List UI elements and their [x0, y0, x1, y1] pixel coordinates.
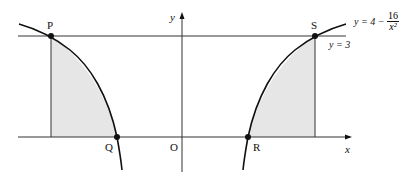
y-axis-label: y: [170, 12, 175, 23]
point-Q: [114, 134, 120, 140]
label-P: P: [47, 20, 53, 31]
curve-label-fraction: 16 x²: [387, 11, 399, 32]
point-R: [245, 134, 251, 140]
shaded-region-left: [51, 36, 117, 137]
point-P: [48, 33, 54, 39]
label-origin: O: [170, 142, 178, 153]
label-Q: Q: [105, 142, 113, 153]
label-R: R: [253, 142, 260, 153]
x-axis-label: x: [345, 144, 350, 155]
shaded-region-right: [248, 36, 315, 137]
line-label: y = 3: [329, 40, 350, 50]
fraction-denominator: x²: [389, 22, 396, 32]
point-S: [312, 33, 318, 39]
label-S: S: [311, 20, 317, 31]
x-axis-arrow-icon: [345, 135, 352, 140]
y-axis-arrow-icon: [180, 12, 185, 19]
curve-label-prefix: y = 4 −: [354, 17, 384, 27]
